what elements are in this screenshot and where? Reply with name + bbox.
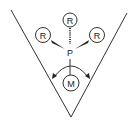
phosphorus-label: P (67, 48, 73, 58)
substituent-right: R (90, 28, 105, 43)
substituent-top: R (63, 13, 77, 27)
substituent-right-label: R (94, 31, 101, 41)
substituent-top-label: R (67, 16, 74, 26)
wedge-bond-left (51, 40, 65, 49)
cone-left-line (11, 10, 71, 117)
metal-center: M (63, 75, 79, 91)
metal-label: M (67, 79, 75, 89)
wedge-bond-right (75, 40, 89, 49)
substituent-left-label: R (40, 31, 47, 41)
cone-angle-diagram: R R R P M (0, 0, 134, 122)
substituent-left: R (36, 28, 51, 43)
